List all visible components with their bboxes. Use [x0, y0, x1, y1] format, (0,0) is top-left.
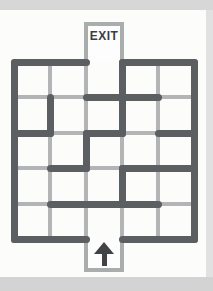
grid-line-vertical [156, 62, 160, 239]
exit-box: EXIT [84, 22, 124, 62]
maze-wall-horizontal [11, 59, 90, 66]
maze-wall-horizontal [47, 165, 90, 172]
up-arrow-stem [102, 253, 107, 266]
maze-wall-vertical [11, 59, 18, 243]
maze-wall-horizontal [155, 130, 198, 137]
maze-wall-horizontal [11, 130, 54, 137]
entrance-box [84, 239, 124, 272]
maze-wall-vertical [191, 59, 198, 243]
maze: EXIT [0, 0, 213, 291]
up-arrow-icon [94, 242, 114, 267]
grid-line-vertical [48, 62, 52, 239]
exit-label: EXIT [90, 29, 119, 43]
maze-wall-horizontal [119, 236, 198, 243]
puzzle-page: EXIT [0, 0, 213, 291]
maze-wall-horizontal [83, 130, 126, 137]
maze-wall-horizontal [47, 201, 162, 208]
maze-wall-horizontal [11, 236, 90, 243]
maze-wall-horizontal [119, 165, 198, 172]
maze-wall-horizontal [119, 59, 198, 66]
maze-wall-horizontal [83, 94, 162, 101]
